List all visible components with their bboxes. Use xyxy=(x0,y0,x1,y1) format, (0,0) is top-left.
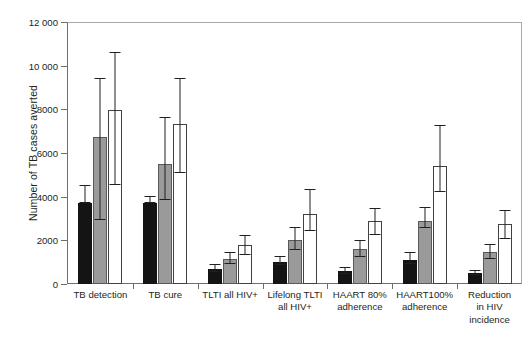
bar-group xyxy=(457,22,522,284)
error-bar-cap-upper xyxy=(369,208,380,209)
bar-group xyxy=(327,22,392,284)
x-axis-label-line: adherence xyxy=(392,301,457,313)
error-bar-stem xyxy=(115,52,116,185)
error-bar xyxy=(418,207,432,229)
error-bar xyxy=(483,244,497,259)
error-bar-cap-lower xyxy=(499,238,510,239)
bar-groups xyxy=(68,22,522,284)
error-bar xyxy=(353,240,367,257)
error-bar-stem xyxy=(245,235,246,255)
error-bar-cap-lower xyxy=(240,254,251,255)
error-bar-cap-upper xyxy=(274,256,285,257)
error-bar-cap-lower xyxy=(354,256,365,257)
error-bar xyxy=(303,189,317,230)
error-bar-stem xyxy=(424,207,425,229)
error-bar-stem xyxy=(100,78,101,220)
error-bar xyxy=(78,185,92,204)
error-bar-cap-lower xyxy=(404,263,415,264)
error-bar xyxy=(498,210,512,239)
error-bar xyxy=(143,196,157,204)
x-axis-label: TLTI all HIV+ xyxy=(198,289,263,301)
error-bar-stem xyxy=(180,78,181,173)
x-axis-label-line: in HIV xyxy=(457,301,522,313)
x-axis-label-line: TLTI all HIV+ xyxy=(198,289,263,301)
bar xyxy=(143,203,157,284)
error-bar xyxy=(223,252,237,264)
error-bar-stem xyxy=(309,189,310,230)
error-bar-cap-upper xyxy=(225,252,236,253)
bar-chart: Number of TB cases averted 0200040006000… xyxy=(0,0,531,343)
x-axis-label: Lifelong TLTIall HIV+ xyxy=(263,289,328,314)
x-axis-label-line: HAART100% xyxy=(392,289,457,301)
error-bar-cap-lower xyxy=(175,172,186,173)
y-axis-tick-label: 4000 xyxy=(37,191,58,202)
error-bar-cap-lower xyxy=(225,263,236,264)
error-bar xyxy=(238,235,252,255)
error-bar-cap-lower xyxy=(160,199,171,200)
y-axis: 0200040006000800010 00012 000 xyxy=(0,22,67,284)
error-bar-cap-upper xyxy=(339,267,350,268)
error-bar-stem xyxy=(165,117,166,200)
error-bar-cap-upper xyxy=(304,189,315,190)
error-bar-cap-lower xyxy=(484,258,495,259)
error-bar xyxy=(368,208,382,236)
error-bar-cap-upper xyxy=(175,78,186,79)
error-bar xyxy=(468,270,482,275)
x-axis-label: HAART100%adherence xyxy=(392,289,457,314)
x-axis-label-line: HAART 80% xyxy=(327,289,392,301)
error-bar xyxy=(273,256,287,265)
error-bar-cap-upper xyxy=(240,235,251,236)
error-bar-cap-lower xyxy=(434,191,445,192)
y-axis-tick-label: 12 000 xyxy=(29,17,58,28)
error-bar-stem xyxy=(504,210,505,239)
error-bar-cap-lower xyxy=(289,249,300,250)
error-bar-cap-upper xyxy=(404,252,415,253)
error-bar xyxy=(208,264,222,272)
error-bar-cap-lower xyxy=(80,202,91,203)
error-bar xyxy=(158,117,172,200)
bar-group xyxy=(198,22,263,284)
y-axis-tick xyxy=(61,284,67,285)
error-bar-cap-upper xyxy=(354,240,365,241)
error-bar-cap-upper xyxy=(145,196,156,197)
x-axis-label-line: Lifelong TLTI xyxy=(263,289,328,301)
bar-group xyxy=(133,22,198,284)
error-bar-cap-upper xyxy=(210,264,221,265)
error-bar-cap-lower xyxy=(145,202,156,203)
x-axis-label-line: incidence xyxy=(457,314,522,326)
error-bar-stem xyxy=(359,240,360,257)
error-bar-stem xyxy=(439,125,440,193)
x-axis-label-line: all HIV+ xyxy=(263,301,328,313)
error-bar xyxy=(108,52,122,185)
error-bar-cap-lower xyxy=(339,273,350,274)
error-bar-stem xyxy=(294,227,295,250)
error-bar-cap-upper xyxy=(469,270,480,271)
error-bar-stem xyxy=(374,208,375,236)
error-bar-cap-upper xyxy=(95,78,106,79)
error-bar xyxy=(338,267,352,274)
x-axis-label: TB cure xyxy=(133,289,198,301)
x-axis-label: Reductionin HIVincidence xyxy=(457,289,522,326)
y-axis-tick-label: 2000 xyxy=(37,235,58,246)
error-bar-cap-lower xyxy=(369,234,380,235)
error-bar-cap-lower xyxy=(95,219,106,220)
error-bar-cap-upper xyxy=(80,185,91,186)
y-axis-tick-label: 0 xyxy=(53,279,58,290)
x-axis-label: TB detection xyxy=(68,289,133,301)
y-axis-tick-label: 10 000 xyxy=(29,60,58,71)
error-bar-cap-upper xyxy=(484,244,495,245)
error-bar-cap-upper xyxy=(289,227,300,228)
error-bar-cap-upper xyxy=(419,207,430,208)
error-bar xyxy=(433,125,447,193)
y-axis-tick-label: 8000 xyxy=(37,104,58,115)
error-bar-cap-lower xyxy=(110,184,121,185)
error-bar-cap-lower xyxy=(304,230,315,231)
bar-group xyxy=(68,22,133,284)
error-bar-cap-lower xyxy=(419,227,430,228)
x-axis-label-line: TB cure xyxy=(133,289,198,301)
error-bar-cap-upper xyxy=(160,117,171,118)
error-bar-cap-lower xyxy=(274,264,285,265)
error-bar-cap-lower xyxy=(210,271,221,272)
error-bar xyxy=(288,227,302,250)
x-axis-label-line: adherence xyxy=(327,301,392,313)
